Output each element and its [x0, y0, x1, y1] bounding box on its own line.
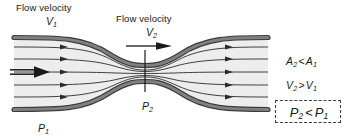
flow-velocity-1-label: Flow velocity — [16, 2, 72, 13]
velocity-relation-left-subscript: 2 — [293, 84, 297, 93]
flow-velocity-2-label: Flow velocity — [116, 13, 172, 24]
velocity-relation-right: V — [306, 79, 313, 91]
velocity-2-arrow — [126, 42, 172, 50]
pressure-relation: P2<P1 — [276, 101, 342, 124]
pressure-relation-operator: < — [303, 105, 315, 120]
pressure-relation-right: P — [315, 105, 324, 120]
velocity-2-subscript: 2 — [153, 31, 157, 40]
pressure-1-symbol-text: P — [38, 122, 45, 134]
pressure-1-symbol: P1 — [38, 122, 49, 134]
velocity-2-symbol-text: V — [146, 26, 153, 38]
velocity-1-symbol-text: V — [46, 15, 53, 27]
pressure-2-subscript: 2 — [149, 105, 153, 114]
velocity-relation: V2>V1 — [286, 79, 317, 91]
area-relation: A2<A1 — [286, 55, 317, 67]
area-relation-left-subscript: 2 — [293, 60, 297, 69]
pressure-relation-left-subscript: 2 — [298, 111, 303, 121]
pressure-1-subscript: 1 — [45, 127, 49, 136]
pressure-relation-right-subscript: 1 — [323, 111, 328, 121]
velocity-relation-operator: > — [297, 79, 305, 91]
area-relation-operator: < — [297, 55, 305, 67]
velocity-1-subscript: 1 — [53, 20, 57, 29]
area-relation-right-subscript: 1 — [313, 60, 317, 69]
pressure-2-symbol-text: P — [142, 100, 149, 112]
pressure-relation-highlight-box: P2<P1 — [275, 100, 341, 123]
velocity-relation-right-subscript: 1 — [313, 84, 317, 93]
velocity-1-symbol: V1 — [46, 15, 57, 27]
area-relation-right: A — [306, 55, 313, 67]
velocity-2-symbol: V2 — [146, 26, 157, 38]
pressure-2-symbol: P2 — [142, 100, 153, 112]
venturi-diagram: Flow velocity V1 Flow velocity V2 P1 P2 … — [0, 0, 348, 140]
